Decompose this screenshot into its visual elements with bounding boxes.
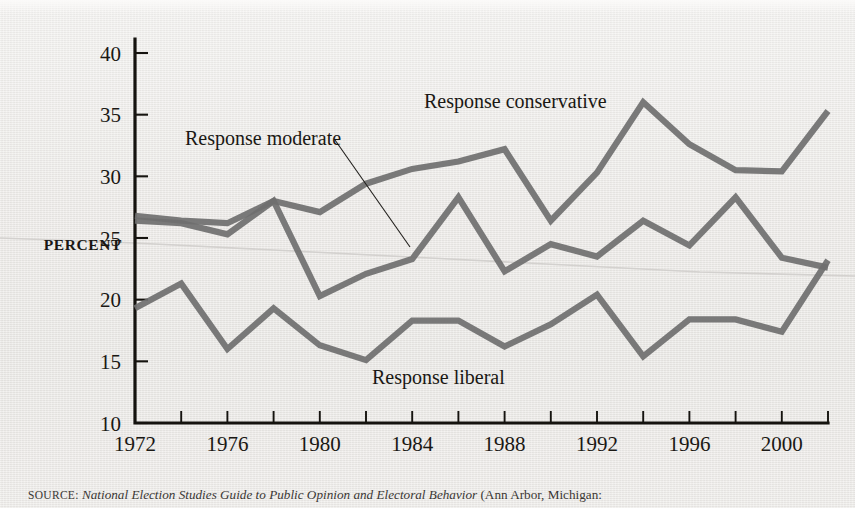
series-label-moderate: Response moderate (185, 127, 341, 150)
source-caption: SOURCE: National Election Studies Guide … (28, 487, 848, 502)
series-label-conservative: Response conservative (424, 90, 607, 113)
y-tick-label: 30 (100, 165, 121, 189)
x-tick-label: 1984 (391, 432, 434, 456)
x-tick-label: 1980 (299, 432, 341, 456)
x-tick-label: 1976 (206, 432, 248, 456)
y-tick-label: 40 (100, 42, 121, 66)
x-tick-label: 1988 (484, 432, 526, 456)
y-tick-label: 35 (100, 103, 121, 127)
x-tick-label: 1992 (576, 432, 618, 456)
series-line-liberal (135, 260, 828, 360)
source-rest: (Ann Arbor, Michigan: (480, 487, 601, 502)
y-tick-label: 20 (100, 288, 121, 312)
line-chart-figure: 10152025303540 1972197619801984198819921… (0, 0, 855, 508)
source-title: National Election Studies Guide to Publi… (82, 487, 477, 502)
y-tick-label: 15 (100, 350, 121, 374)
series-line-moderate (135, 197, 828, 296)
y-axis-title: PERCENT (44, 236, 122, 253)
source-word: SOURCE: (28, 489, 79, 501)
x-tick-label: 1972 (114, 432, 156, 456)
x-tick-label: 2000 (761, 432, 803, 456)
series-label-liberal: Response liberal (372, 366, 505, 389)
x-tick-label: 1996 (668, 432, 710, 456)
x-tick-labels: 19721976198019841988199219962000 (114, 432, 803, 456)
chart-canvas: 10152025303540 1972197619801984198819921… (0, 0, 855, 508)
